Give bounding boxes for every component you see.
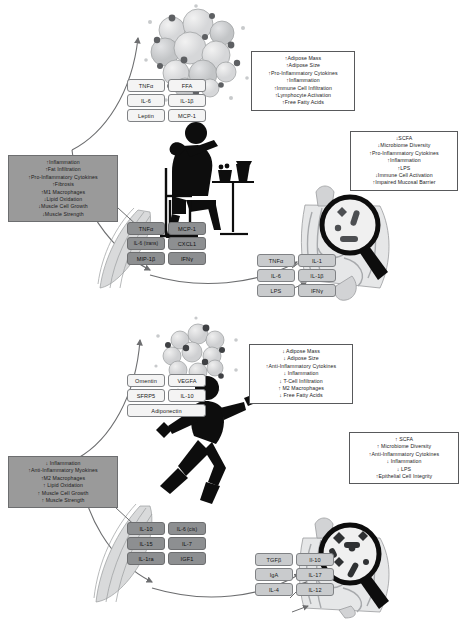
- exercise-muscle-outcome-box: ↓ Inflammation ↑Anti-Inflammatory Myokin…: [8, 456, 118, 508]
- exercise-adipose-outcome-box: ↓ Adipose Mass ↓ Adipose Size ↑Anti-Infl…: [249, 344, 353, 404]
- chip-il1[interactable]: IL-1: [298, 254, 336, 267]
- chip-il12[interactable]: IL-12: [296, 583, 334, 596]
- obesity-cycle-panel: TNFα FFA IL-6 IL-1β Leptin MCP-1 ↑Adipos…: [0, 0, 463, 309]
- outcome-line: ↓Immune Cell Activation: [355, 172, 453, 179]
- chip-lps[interactable]: LPS: [257, 284, 295, 297]
- obese-adipokine-chip-group: TNFα FFA IL-6 IL-1β Leptin MCP-1: [127, 79, 209, 122]
- chip-tnfa[interactable]: TNFα: [127, 79, 165, 92]
- outcome-line: ↑Pro-Inflammatory Cytokines: [13, 174, 113, 181]
- chip-il6[interactable]: IL-6: [127, 94, 165, 107]
- outcome-line: ↑Fibrosis: [13, 181, 113, 188]
- chip-il1ra[interactable]: IL-1ra: [127, 552, 165, 565]
- outcome-line: ↑ SCFA: [354, 436, 454, 443]
- obese-adipose-outcome-box: ↑Adipose Mass ↑Adipose Size ↑Pro-Inflamm…: [251, 51, 355, 111]
- outcome-line: ↓ Free Fatty Acids: [254, 392, 348, 399]
- outcome-line: ↑Inflammation: [355, 157, 453, 164]
- outcome-line: ↓Muscle Strength: [13, 211, 113, 218]
- chip-mcp1[interactable]: MCP-1: [168, 222, 206, 235]
- chip-omentin[interactable]: Omentin: [127, 374, 165, 387]
- chip-il1b[interactable]: IL-1β: [168, 94, 206, 107]
- chip-ifng[interactable]: IFNγ: [168, 252, 206, 265]
- chip-ffa[interactable]: FFA: [168, 79, 206, 92]
- outcome-line: ↑Fat Infiltration: [13, 166, 113, 173]
- chip-ifng[interactable]: IFNγ: [298, 284, 336, 297]
- outcome-line: ↓ Adipose Size: [254, 355, 348, 362]
- outcome-line: ↓ Inflammation: [354, 458, 454, 465]
- outcome-line: ↑Pro-Inflammatory Cytokines: [256, 70, 350, 77]
- outcome-line: ↓Lipid Oxidation: [13, 196, 113, 203]
- chip-cxcl1[interactable]: CXCL1: [168, 237, 206, 250]
- outcome-line: ↑Immune Cell Infiltration: [256, 85, 350, 92]
- outcome-line: ↑Adipose Mass: [256, 55, 350, 62]
- outcome-line: ↑Anti-Inflammatory Cytokines: [354, 451, 454, 458]
- outcome-line: ↑ Muscle Strength: [13, 497, 113, 504]
- exercise-gut-outcome-box: ↑ SCFA ↑ Microbiome Diversity ↑Anti-Infl…: [349, 432, 459, 484]
- chip-il6[interactable]: IL-6: [257, 269, 295, 282]
- obese-myokine-chip-group: TNFα MCP-1 IL-6 (trans) CXCL1 MIP-1β IFN…: [127, 222, 209, 265]
- outcome-line: ↓Muscle Cell Growth: [13, 203, 113, 210]
- exercise-cycle-panel: Omentin VEGFA SFRP5 IL-10 Adiponectin ↓ …: [0, 310, 463, 619]
- outcome-line: ↑ Muscle Cell Growth: [13, 490, 113, 497]
- chip-iga[interactable]: IgA: [255, 568, 293, 581]
- outcome-line: ↑LPS: [355, 165, 453, 172]
- chip-tnfa[interactable]: TNFα: [127, 222, 165, 235]
- chip-mcp1[interactable]: MCP-1: [168, 109, 206, 122]
- chip-il7[interactable]: IL-7: [168, 537, 206, 550]
- outcome-line: ↑ M2 Macrophages: [254, 385, 348, 392]
- obese-muscle-outcome-box: ↑Inflammation ↑Fat Infiltration ↑Pro-Inf…: [8, 155, 118, 222]
- outcome-line: ↑Impaired Mucosal Barrier: [355, 179, 453, 186]
- chip-il10[interactable]: Il-10: [296, 553, 334, 566]
- outcome-line: ↓SCFA: [355, 135, 453, 142]
- chip-il10[interactable]: IL-10: [168, 389, 206, 402]
- chip-igf1[interactable]: IGF1: [168, 552, 206, 565]
- exercise-gut-chip-group: TGFβ Il-10 IgA IL-17 IL-4 IL-12: [255, 553, 337, 596]
- outcome-line: ↑M1 Macrophages: [13, 189, 113, 196]
- chip-il1b[interactable]: IL-1β: [298, 269, 336, 282]
- outcome-line: ↑Anti-Inflammatory Cytokines: [254, 363, 348, 370]
- outcome-line: ↓Microbiome Diversity: [355, 142, 453, 149]
- outcome-line: ↓ Inflammation: [254, 370, 348, 377]
- exercise-myokine-chip-group: IL-10 IL-6 (cis) IL-15 IL-7 IL-1ra IGF1: [127, 522, 209, 565]
- outcome-line: ↑Inflammation: [256, 77, 350, 84]
- obese-gut-outcome-box: ↓SCFA ↓Microbiome Diversity ↑Pro-Inflamm…: [350, 131, 458, 191]
- chip-il6-trans[interactable]: IL-6 (trans): [127, 237, 165, 250]
- outcome-line: ↑Free Fatty Acids: [256, 99, 350, 106]
- outcome-line: ↑ Microbiome Diversity: [354, 443, 454, 450]
- sedentary-person-icon: [160, 122, 254, 238]
- outcome-line: ↑Anti-Inflammatory Myokines: [13, 467, 113, 474]
- chip-tnfa[interactable]: TNFα: [257, 254, 295, 267]
- chip-il17[interactable]: IL-17: [296, 568, 334, 581]
- outcome-line: ↑M2 Macrophages: [13, 475, 113, 482]
- chip-mip1b[interactable]: MIP-1β: [127, 252, 165, 265]
- outcome-line: ↑Lymphocyte Activation: [256, 92, 350, 99]
- chip-il4[interactable]: IL-4: [255, 583, 293, 596]
- outcome-line: ↓ LPS: [354, 466, 454, 473]
- chip-il6-cis[interactable]: IL-6 (cis): [168, 522, 206, 535]
- outcome-line: ↑Epithelial Cell Integrity: [354, 473, 454, 480]
- chip-sfrp5[interactable]: SFRP5: [127, 389, 165, 402]
- chip-leptin[interactable]: Leptin: [127, 109, 165, 122]
- chip-adiponectin[interactable]: Adiponectin: [127, 404, 206, 417]
- outcome-line: ↑ Lipid Oxidation: [13, 482, 113, 489]
- chip-vegfa[interactable]: VEGFA: [168, 374, 206, 387]
- obese-gut-chip-group: TNFα IL-1 IL-6 IL-1β LPS IFNγ: [257, 254, 339, 297]
- exercise-adipokine-chip-group: Omentin VEGFA SFRP5 IL-10 Adiponectin: [127, 374, 209, 417]
- chip-il15[interactable]: IL-15: [127, 537, 165, 550]
- outcome-line: ↑Inflammation: [13, 159, 113, 166]
- chip-il10[interactable]: IL-10: [127, 522, 165, 535]
- outcome-line: ↓ T-Cell Infiltration: [254, 378, 348, 385]
- outcome-line: ↓ Inflammation: [13, 460, 113, 467]
- chip-tgfb[interactable]: TGFβ: [255, 553, 293, 566]
- outcome-line: ↑Adipose Size: [256, 62, 350, 69]
- outcome-line: ↓ Adipose Mass: [254, 348, 348, 355]
- outcome-line: ↑Pro-Inflammatory Cytokines: [355, 150, 453, 157]
